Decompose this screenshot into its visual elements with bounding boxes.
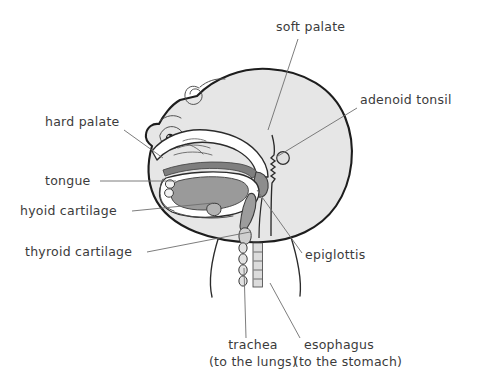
- label-tongue: tongue: [45, 173, 91, 188]
- label-hyoid-cartilage: hyoid cartilage: [20, 203, 117, 218]
- trachea-ring: [239, 265, 247, 275]
- tooth-lower: [165, 189, 174, 197]
- trachea-ring: [239, 243, 247, 253]
- esophagus-group: [253, 243, 263, 287]
- label-esophagus-destination: (to the stomach): [294, 354, 402, 369]
- thyroid-cartilage-shape: [239, 228, 251, 245]
- adenoid-tonsil-nodule: [277, 152, 290, 165]
- trachea-ring: [239, 276, 247, 286]
- label-hard-palate: hard palate: [45, 114, 120, 129]
- label-esophagus: esophagus: [304, 337, 374, 352]
- anatomy-diagram: soft palate adenoid tonsil hard palate t…: [0, 0, 482, 391]
- hyoid-cartilage-shape: [207, 203, 221, 215]
- label-trachea-destination: (to the lungs): [209, 354, 297, 369]
- label-soft-palate: soft palate: [276, 19, 345, 34]
- label-trachea: trachea: [228, 337, 278, 352]
- label-epiglottis: epiglottis: [305, 247, 365, 262]
- label-adenoid-tonsil: adenoid tonsil: [360, 92, 452, 107]
- anatomy-illustration: soft palate adenoid tonsil hard palate t…: [0, 0, 482, 391]
- label-thyroid-cartilage: thyroid cartilage: [25, 244, 132, 259]
- esophagus-tube: [253, 243, 263, 287]
- trachea-ring: [239, 254, 247, 264]
